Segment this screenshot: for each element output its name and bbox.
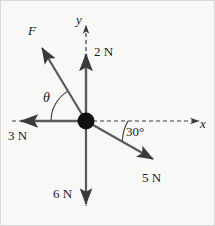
origin-point xyxy=(78,113,95,130)
vector-F xyxy=(42,48,86,121)
vector-label-6N: 6 N xyxy=(53,187,72,200)
vector-label-3N: 3 N xyxy=(8,129,27,142)
force-diagram-figure: F 2 N 3 N 6 N 5 N θ 30° y x xyxy=(0,0,215,226)
angle-label-theta: θ xyxy=(43,91,50,105)
angle-label-30-degrees: 30° xyxy=(126,125,144,138)
theta-angle-arc xyxy=(51,91,68,121)
axis-label-y: y xyxy=(76,13,82,26)
vector-label-F: F xyxy=(28,24,36,37)
vector-label-2N: 2 N xyxy=(94,45,113,58)
vector-label-5N: 5 N xyxy=(142,171,161,184)
axis-label-x: x xyxy=(200,117,206,130)
